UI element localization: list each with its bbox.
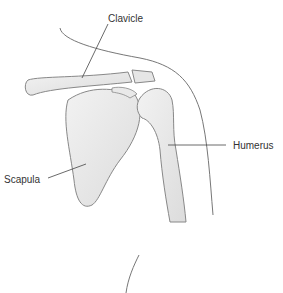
label-clavicle: Clavicle [108,13,143,24]
humerus-bone [137,88,186,222]
scapula-bone [66,89,140,206]
acromion [132,70,155,83]
label-scapula: Scapula [4,174,40,185]
label-humerus: Humerus [233,140,274,151]
